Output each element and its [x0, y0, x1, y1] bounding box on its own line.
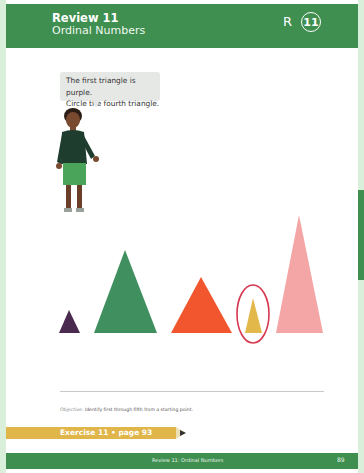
triangle-row [0, 0, 364, 473]
exercise-reference: Exercise 11 • page 93 [60, 428, 152, 438]
objective-label: Objective: [60, 407, 83, 412]
triangle-1-purple [59, 310, 80, 333]
triangle-3-red [171, 277, 232, 333]
pencil-lead [180, 430, 186, 436]
page-number: 89 [337, 456, 345, 463]
triangle-2-green [94, 250, 157, 333]
objective-text: Objective: Identify first through fifth … [60, 407, 193, 412]
footer-label: Review 11: Ordinal Numbers [152, 457, 223, 463]
triangle-5-pink [276, 215, 323, 333]
objective-body: Identify first through fifth from a star… [85, 407, 193, 412]
divider-line [60, 391, 324, 392]
triangle-4-yellow[interactable] [245, 298, 262, 333]
